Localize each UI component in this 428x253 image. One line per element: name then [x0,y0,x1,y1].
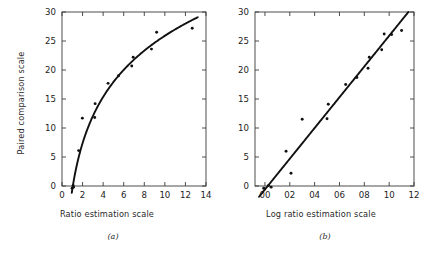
x-tick-label: 12 [409,190,420,200]
x-tick-label: 12 [180,190,191,200]
x-tick-label: 08 [359,190,370,200]
data-point [130,64,133,67]
x-tick-label: 10 [384,190,395,200]
x-tick-label: 06 [334,190,345,200]
x-axis-title-b: Log ratio estimation scale [214,209,428,219]
data-point [270,186,273,189]
y-tick-label: 10 [238,123,249,133]
panel-b: 00020406081012051015202530 Log ratio est… [214,0,428,253]
data-point [285,150,288,153]
fitted-line [259,12,408,197]
x-tick-label: 04 [309,190,320,200]
data-point [327,103,330,106]
data-point [355,76,358,79]
data-point [301,118,304,121]
y-tick-label: 0 [244,181,249,191]
y-tick-label: 30 [45,7,56,17]
x-tick-label: 8 [142,190,147,200]
x-tick-label: 2 [80,190,85,200]
data-point [117,74,120,77]
data-point [368,56,371,59]
data-point [155,31,158,34]
data-point [191,27,194,30]
y-tick-label: 0 [51,181,56,191]
data-point [132,56,135,59]
panel-caption-b: (b) [218,232,428,241]
y-tick-label: 5 [244,152,249,162]
data-point [367,67,370,70]
figure-container: Paired comparison scale 0246810121405101… [0,0,428,253]
data-point [267,184,270,187]
data-point [380,48,383,51]
data-point [326,117,329,120]
y-tick-label: 20 [45,65,56,75]
x-tick-label: 10 [159,190,170,200]
data-point [383,33,386,36]
y-tick-label: 5 [51,152,56,162]
x-tick-label: 14 [201,190,212,200]
x-tick-label: 6 [121,190,126,200]
y-tick-label: 15 [238,94,249,104]
x-tick-label: 4 [100,190,105,200]
data-point [390,33,393,36]
data-point [94,102,97,105]
panel-caption-a: (a) [6,232,220,241]
fitted-curve [72,17,198,193]
y-tick-label: 20 [238,65,249,75]
data-point [72,186,75,189]
data-point [93,116,96,119]
x-axis-title-a: Ratio estimation scale [0,209,214,219]
axes-frame [255,12,414,186]
y-tick-label: 10 [45,123,56,133]
y-tick-label: 25 [238,36,249,46]
x-tick-label: 02 [284,190,295,200]
data-point [107,82,110,85]
y-tick-label: 15 [45,94,56,104]
data-point [150,48,153,51]
y-tick-label: 25 [45,36,56,46]
data-point [344,83,347,86]
data-point [77,149,80,152]
data-point [262,187,265,190]
axes-frame [62,12,206,186]
y-tick-label: 30 [238,7,249,17]
data-point [290,172,293,175]
data-point [81,117,84,120]
panel-a: Paired comparison scale 0246810121405101… [0,0,214,253]
data-point [400,29,403,32]
x-tick-label: 0 [59,190,64,200]
